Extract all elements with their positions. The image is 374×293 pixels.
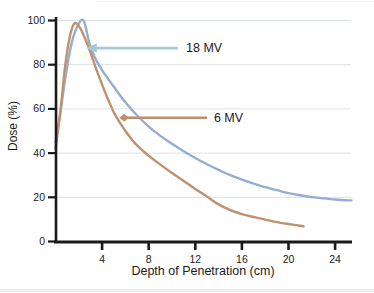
y-tick-label-20: 20 — [33, 191, 45, 203]
annotations: 18 MV6 MV — [86, 41, 244, 125]
annotation-6-mv-label: 6 MV — [214, 111, 244, 125]
tick-labels: 0204060801004812162024 — [27, 14, 341, 265]
x-tick-label-24: 24 — [329, 253, 341, 265]
percent-depth-dose-figure: 0204060801004812162024 18 MV6 MV Dose (%… — [0, 0, 374, 293]
y-tick-label-60: 60 — [33, 102, 45, 114]
y-tick-label-40: 40 — [33, 147, 45, 159]
y-tick-label-80: 80 — [33, 58, 45, 70]
annotation-6-mv-arrowhead — [119, 114, 129, 122]
dose-depth-chart: 0204060801004812162024 18 MV6 MV Dose (%… — [0, 0, 374, 293]
y-tick-label-0: 0 — [39, 235, 45, 247]
y-tick-label-100: 100 — [27, 14, 45, 26]
y-axis-title: Dose (%) — [6, 101, 20, 151]
x-tick-label-4: 4 — [99, 253, 105, 265]
x-tick-label-20: 20 — [283, 253, 295, 265]
bottom-edge-shade — [0, 289, 374, 292]
annotation-18-mv-label: 18 MV — [186, 41, 223, 55]
x-axis-title: Depth of Penetration (cm) — [131, 264, 274, 278]
